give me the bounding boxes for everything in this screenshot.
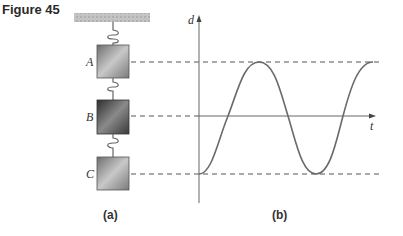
displacement-curve <box>199 62 373 174</box>
block-b-label: B <box>86 110 94 124</box>
x-axis-label: t <box>370 119 374 133</box>
y-axis-arrow-icon <box>197 15 202 22</box>
block-a-label: A <box>85 55 94 69</box>
spring-icon <box>108 134 119 157</box>
block-b <box>97 100 129 134</box>
block-c-label: C <box>86 167 95 181</box>
block-c <box>97 157 129 190</box>
figure-canvas: A B C (a) d t (b) <box>0 0 403 236</box>
panel-b-caption: (b) <box>272 208 287 222</box>
block-a <box>97 45 129 78</box>
ceiling <box>74 13 150 22</box>
spring-mass-system: A B C (a) <box>74 13 150 222</box>
spring-icon <box>108 78 119 100</box>
x-axis-arrow-icon <box>369 114 376 119</box>
spring-icon <box>108 22 119 45</box>
panel-a-caption: (a) <box>103 208 118 222</box>
y-axis-label: d <box>188 13 195 27</box>
